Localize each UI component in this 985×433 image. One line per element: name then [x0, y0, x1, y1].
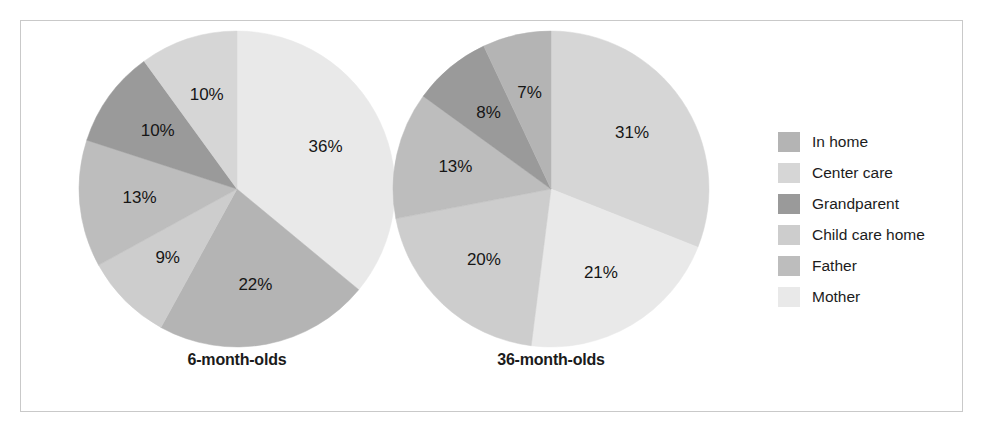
legend-item-label: Grandparent	[812, 195, 899, 213]
pie-caption-right: 36-month-olds	[391, 351, 711, 369]
legend-item-label: Mother	[812, 288, 860, 306]
legend-item-label: Center care	[812, 164, 893, 182]
legend-item[interactable]: In home	[778, 126, 978, 157]
pie-slice-label: 9%	[155, 248, 180, 267]
pie-chart-36-month-olds: 31%21%20%13%8%7% 36-month-olds	[391, 29, 711, 374]
pie-chart-6-month-olds: 36%22%9%13%10%10% 6-month-olds	[77, 29, 397, 374]
pie-slice-label: 31%	[615, 123, 649, 142]
chart-frame: 36%22%9%13%10%10% 6-month-olds 31%21%20%…	[20, 20, 963, 412]
pie-slice-label: 10%	[141, 121, 175, 140]
legend-item-label: Child care home	[812, 226, 925, 244]
legend-item[interactable]: Center care	[778, 157, 978, 188]
pie-slice-label: 20%	[467, 250, 501, 269]
pie-caption-left: 6-month-olds	[77, 351, 397, 369]
legend-swatch-icon	[778, 287, 800, 307]
legend-item[interactable]: Child care home	[778, 219, 978, 250]
legend-item-label: Father	[812, 257, 857, 275]
legend-swatch-icon	[778, 256, 800, 276]
legend-swatch-icon	[778, 225, 800, 245]
legend-swatch-icon	[778, 132, 800, 152]
legend: In homeCenter careGrandparentChild care …	[778, 126, 978, 312]
pie-slice-label: 10%	[190, 85, 224, 104]
pie-chart-figure: 36%22%9%13%10%10% 6-month-olds 31%21%20%…	[0, 0, 985, 433]
legend-swatch-icon	[778, 163, 800, 183]
legend-item[interactable]: Mother	[778, 281, 978, 312]
legend-item[interactable]: Father	[778, 250, 978, 281]
pie-svg-right: 31%21%20%13%8%7%	[391, 29, 711, 349]
pie-slice-label: 22%	[238, 275, 272, 294]
pie-slice-label: 21%	[584, 263, 618, 282]
legend-swatch-icon	[778, 194, 800, 214]
pie-slice-label: 36%	[309, 137, 343, 156]
pie-slice-label: 8%	[476, 103, 501, 122]
pie-svg-left: 36%22%9%13%10%10%	[77, 29, 397, 349]
legend-item[interactable]: Grandparent	[778, 188, 978, 219]
pie-slice-label: 7%	[517, 83, 542, 102]
legend-item-label: In home	[812, 133, 868, 151]
pie-slice-label: 13%	[438, 157, 472, 176]
pie-slice-label: 13%	[122, 188, 156, 207]
